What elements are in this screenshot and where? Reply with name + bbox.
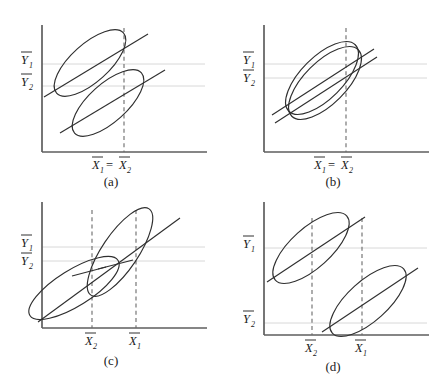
svg-text:=: = [106, 158, 113, 172]
panel-b: Y 1 Y 2 X 1 = X 2 (b) [222, 0, 444, 190]
y-tick-label-y2: Y 2 [21, 74, 33, 92]
svg-text:1: 1 [363, 349, 367, 358]
y-tick-label-y1: Y 1 [21, 235, 33, 253]
y-tick-label-y1: Y 1 [243, 52, 255, 70]
svg-text:2: 2 [251, 79, 255, 88]
x-tick-label-xmean: X 1 = X 2 [91, 157, 131, 175]
svg-text:2: 2 [127, 166, 131, 175]
panel-d: Y 1 Y 2 X 2 X 1 (d) [222, 190, 444, 380]
y-tick-label-y2: Y 2 [243, 311, 255, 329]
svg-text:1: 1 [251, 245, 255, 254]
trend-line-group1 [267, 217, 365, 282]
svg-text:2: 2 [29, 83, 33, 92]
x-tick-label-x1: X 1 [128, 333, 141, 351]
trend-line-group2 [322, 268, 418, 332]
svg-text:2: 2 [251, 320, 255, 329]
svg-text:1: 1 [29, 244, 33, 253]
svg-text:2: 2 [313, 349, 317, 358]
x-tick-label-x1: X 1 [354, 340, 367, 358]
x-tick-label-x2: X 2 [84, 333, 97, 351]
svg-text:1: 1 [137, 342, 141, 351]
panel-caption-b: (b) [325, 174, 340, 189]
panel-caption-c: (c) [104, 353, 118, 368]
y-tick-label-y1: Y 1 [243, 236, 255, 254]
svg-text:1: 1 [29, 61, 33, 70]
panel-caption-d: (d) [325, 359, 340, 374]
svg-text:=: = [328, 158, 335, 172]
panel-c: Y 1 Y 2 X 2 X 1 (c) [0, 190, 222, 380]
x-tick-label-xmean: X 1 = X 2 [313, 157, 353, 175]
panel-caption-a: (a) [104, 174, 118, 189]
y-tick-label-y2: Y 2 [21, 253, 33, 271]
data-ellipse-group1 [76, 199, 164, 305]
svg-text:2: 2 [349, 166, 353, 175]
y-tick-label-y1: Y 1 [21, 52, 33, 70]
figure-root: Y 1 Y 2 X 1 = X 2 (a) [0, 0, 445, 380]
svg-text:2: 2 [93, 342, 97, 351]
panel-a: Y 1 Y 2 X 1 = X 2 (a) [0, 0, 222, 190]
x-tick-label-x2: X 2 [304, 340, 317, 358]
trend-line-pooled [38, 218, 180, 322]
y-tick-label-y2: Y 2 [243, 70, 255, 88]
svg-text:1: 1 [251, 61, 255, 70]
svg-text:2: 2 [29, 262, 33, 271]
